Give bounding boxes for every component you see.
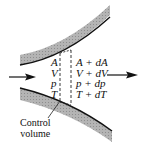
outlet-pressure-label: p + dp xyxy=(76,78,108,89)
inlet-temperature-label: T xyxy=(51,89,58,100)
outlet-labels: A + dA V + dV p + dp T + dT xyxy=(76,57,108,99)
inlet-labels: A V p T xyxy=(51,57,58,99)
inlet-arrow-icon xyxy=(9,74,36,81)
outlet-arrow-icon xyxy=(107,72,138,79)
outlet-area-label: A + dA xyxy=(76,57,108,68)
outlet-temperature-label: T + dT xyxy=(76,89,108,100)
inlet-pressure-label: p xyxy=(51,78,58,89)
control-volume-boundary xyxy=(60,50,71,105)
control-volume-label: Control volume xyxy=(20,117,51,139)
inlet-area-label: A xyxy=(51,57,58,68)
